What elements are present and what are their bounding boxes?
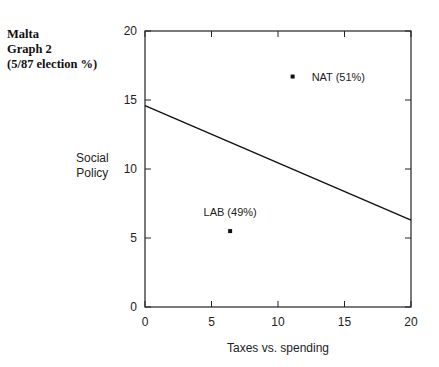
y-tick-label: 5: [130, 231, 137, 245]
data-point-nat: [291, 75, 295, 79]
plot-frame: [145, 31, 411, 307]
x-tick-label: 15: [338, 315, 352, 329]
x-tick-label: 0: [142, 315, 149, 329]
point-label-lab: LAB (49%): [204, 206, 257, 218]
dividing-line: [145, 106, 411, 221]
y-tick-label: 20: [124, 24, 138, 38]
plot-area: 0510152005101520NAT (51%)LAB (49%): [0, 0, 439, 367]
x-tick-label: 10: [271, 315, 285, 329]
x-tick-label: 20: [404, 315, 418, 329]
x-tick-label: 5: [208, 315, 215, 329]
data-point-lab: [228, 229, 232, 233]
y-tick-label: 15: [124, 93, 138, 107]
y-tick-label: 0: [130, 300, 137, 314]
point-label-nat: NAT (51%): [312, 71, 365, 83]
y-tick-label: 10: [124, 162, 138, 176]
